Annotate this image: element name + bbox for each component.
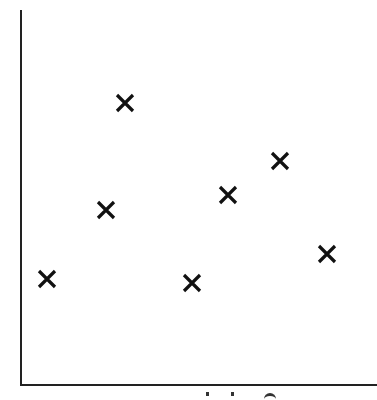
clipped-glyph-fragment [206, 392, 209, 396]
x-axis-label-clipped [180, 392, 300, 400]
data-point-x-marker [98, 202, 114, 218]
data-point-x-marker [272, 153, 288, 169]
data-point-x-marker [39, 271, 55, 287]
data-markers [39, 95, 335, 291]
clipped-glyph-fragment [231, 392, 234, 396]
data-point-x-marker [117, 95, 133, 111]
clipped-glyph-fragment [264, 393, 276, 399]
scatter-plot [0, 0, 377, 400]
data-point-x-marker [184, 275, 200, 291]
data-point-x-marker [220, 187, 236, 203]
data-point-x-marker [319, 246, 335, 262]
